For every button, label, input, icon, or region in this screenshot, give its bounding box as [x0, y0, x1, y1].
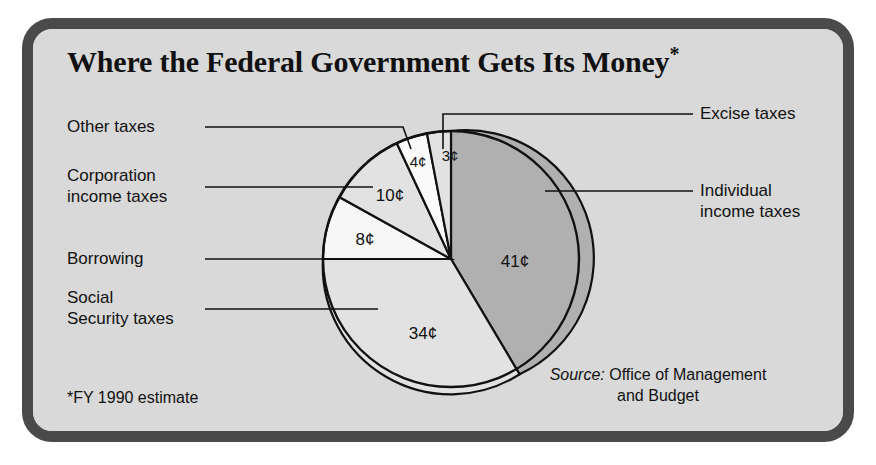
pie-value-excise-taxes: 3¢ — [442, 147, 459, 164]
label-excise-taxes: Excise taxes — [700, 103, 795, 124]
source-text: Office of Management — [605, 366, 767, 383]
label-social-security-taxes: Social Security taxes — [67, 287, 174, 329]
label-borrowing: Borrowing — [67, 248, 144, 269]
source-credit: Source: Office of Management and Budget — [503, 364, 813, 406]
card-inner: Where the Federal Government Gets Its Mo… — [33, 29, 843, 431]
source-text-line2: and Budget — [617, 387, 699, 404]
source-label: Source: — [550, 366, 605, 383]
infographic-card: Where the Federal Government Gets Its Mo… — [22, 18, 854, 442]
footnote: *FY 1990 estimate — [67, 389, 198, 407]
leader-line-other-taxes — [205, 127, 411, 149]
pie-value-social-security-taxes: 34¢ — [409, 324, 437, 343]
label-individual-income-taxes: Individual income taxes — [700, 180, 800, 222]
label-other-taxes: Other taxes — [67, 116, 155, 137]
pie-value-borrowing: 8¢ — [356, 230, 375, 249]
pie-value-other-taxes: 4¢ — [410, 153, 427, 170]
pie-value-individual-income-taxes: 41¢ — [501, 252, 529, 271]
pie-value-corporation-income-taxes: 10¢ — [376, 186, 404, 205]
label-corporation-income-taxes: Corporation income taxes — [67, 165, 167, 207]
